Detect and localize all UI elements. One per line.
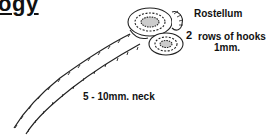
scolex-head — [128, 8, 183, 55]
hooks-count-label: 2 — [186, 29, 192, 41]
tapeworm-scolex-illustration — [0, 0, 266, 137]
neck-label: 5 - 10mm. neck — [83, 91, 155, 102]
hooks-size-label: 1mm. — [214, 42, 240, 53]
rostellum-label: Rostellum — [194, 8, 242, 19]
hooks-label: rows of hooks — [198, 31, 266, 42]
neck-strobila — [14, 34, 140, 134]
